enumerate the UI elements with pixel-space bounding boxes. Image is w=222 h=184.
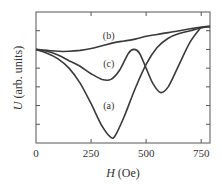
x-ticks: 0250500750 xyxy=(33,12,210,159)
curve-b xyxy=(36,26,210,51)
curve-label: (b) xyxy=(103,30,115,42)
curves xyxy=(36,26,210,138)
curve-a xyxy=(36,27,210,138)
x-tick-label: 250 xyxy=(83,147,100,159)
chart: 0250500750 (a)(b)(c) H(Oe) U(arb. units) xyxy=(0,0,222,184)
x-tick-label: 0 xyxy=(33,147,39,159)
curve-label: (c) xyxy=(103,58,114,70)
x-tick-label: 750 xyxy=(193,147,210,159)
curve-label: (a) xyxy=(103,100,114,112)
x-axis-title: H(Oe) xyxy=(105,166,140,180)
y-axis-title: U(arb. units) xyxy=(11,46,25,110)
x-tick-label: 500 xyxy=(138,147,155,159)
y-ticks xyxy=(36,31,210,125)
